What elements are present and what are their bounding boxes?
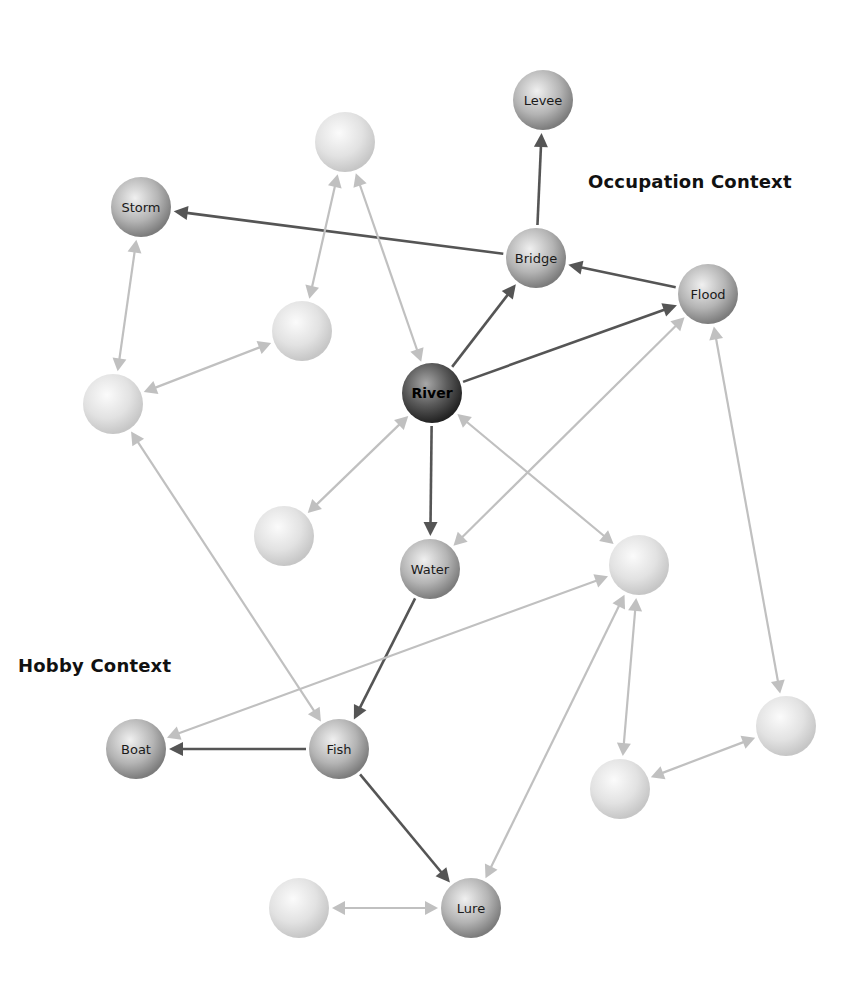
semantic-network-diagram: LeveeStormBridgeFloodRiverWaterBoatFishL… bbox=[0, 0, 855, 987]
arrowhead-icon bbox=[568, 261, 583, 275]
arrowhead-icon bbox=[113, 357, 127, 371]
arrowhead-icon bbox=[332, 901, 345, 915]
sphere-icon bbox=[269, 878, 329, 938]
edge-storm-b3 bbox=[113, 240, 142, 372]
edge-river-b5 bbox=[457, 414, 613, 544]
node-label: Bridge bbox=[515, 251, 557, 266]
edge-b1-b2 bbox=[305, 174, 341, 299]
arrowhead-icon bbox=[502, 284, 516, 299]
edge-flood-bridge bbox=[568, 261, 675, 287]
hobby-context-label: Hobby Context bbox=[18, 655, 171, 676]
node-label: Water bbox=[411, 562, 450, 577]
node-label: Boat bbox=[121, 742, 151, 757]
node-unlabeled-b1 bbox=[315, 112, 375, 172]
node-flood: Flood bbox=[678, 264, 738, 324]
edge-river-water bbox=[424, 426, 438, 536]
arrowhead-icon bbox=[617, 743, 631, 757]
node-unlabeled-b2 bbox=[272, 301, 332, 361]
arrowhead-icon bbox=[308, 707, 321, 722]
edge-b8-lure bbox=[332, 901, 438, 915]
edge-fish-lure bbox=[360, 774, 450, 882]
edge-b5-b7 bbox=[617, 598, 642, 756]
node-unlabeled-b4 bbox=[254, 506, 314, 566]
node-unlabeled-b6 bbox=[756, 696, 816, 756]
node-unlabeled-b5 bbox=[609, 535, 669, 595]
sphere-icon bbox=[315, 112, 375, 172]
edges-layer bbox=[113, 133, 785, 915]
edge-b1-river bbox=[353, 173, 423, 362]
edge-b5-boat bbox=[167, 574, 608, 740]
arrowhead-icon bbox=[424, 522, 438, 536]
node-unlabeled-b8 bbox=[269, 878, 329, 938]
arrowhead-icon bbox=[709, 326, 723, 340]
node-river: River bbox=[402, 363, 462, 423]
edge-bridge-storm bbox=[174, 206, 504, 254]
edge-b5-lure bbox=[485, 595, 625, 879]
node-label: Levee bbox=[524, 93, 563, 108]
edge-flood-water bbox=[453, 317, 684, 546]
node-label: Fish bbox=[326, 742, 351, 757]
arrowhead-icon bbox=[328, 174, 342, 188]
arrowhead-icon bbox=[131, 432, 144, 447]
node-label: Flood bbox=[690, 287, 725, 302]
arrowhead-icon bbox=[534, 133, 548, 147]
occupation-context-label: Occupation Context bbox=[588, 171, 792, 192]
edge-b3-fish bbox=[131, 432, 321, 722]
arrowhead-icon bbox=[628, 598, 642, 612]
edge-b3-b2 bbox=[144, 341, 271, 394]
sphere-icon bbox=[272, 301, 332, 361]
arrowhead-icon bbox=[771, 679, 785, 693]
edge-river-flood bbox=[463, 303, 677, 382]
node-bridge: Bridge bbox=[506, 228, 566, 288]
edge-river-bridge bbox=[452, 284, 516, 367]
sphere-icon bbox=[590, 759, 650, 819]
sphere-icon bbox=[83, 374, 143, 434]
arrowhead-icon bbox=[169, 742, 183, 756]
arrowhead-icon bbox=[305, 285, 319, 299]
edge-bridge-levee bbox=[534, 133, 548, 225]
node-boat: Boat bbox=[106, 719, 166, 779]
node-fish: Fish bbox=[309, 719, 369, 779]
node-label: Lure bbox=[457, 901, 485, 916]
edge-flood-b6 bbox=[709, 326, 784, 693]
nodes-layer: LeveeStormBridgeFloodRiverWaterBoatFishL… bbox=[83, 70, 816, 938]
sphere-icon bbox=[609, 535, 669, 595]
node-storm: Storm bbox=[111, 177, 171, 237]
node-unlabeled-b7 bbox=[590, 759, 650, 819]
edge-fish-boat bbox=[169, 742, 306, 756]
node-label: River bbox=[411, 385, 452, 401]
edge-river-b4 bbox=[308, 416, 409, 513]
arrowhead-icon bbox=[128, 240, 142, 254]
arrowhead-icon bbox=[174, 206, 189, 220]
node-unlabeled-b3 bbox=[83, 374, 143, 434]
arrowhead-icon bbox=[425, 901, 438, 915]
node-label: Storm bbox=[121, 200, 160, 215]
node-water: Water bbox=[400, 539, 460, 599]
edge-b6-b7 bbox=[651, 736, 755, 779]
sphere-icon bbox=[756, 696, 816, 756]
node-lure: Lure bbox=[441, 878, 501, 938]
node-levee: Levee bbox=[513, 70, 573, 130]
sphere-icon bbox=[254, 506, 314, 566]
